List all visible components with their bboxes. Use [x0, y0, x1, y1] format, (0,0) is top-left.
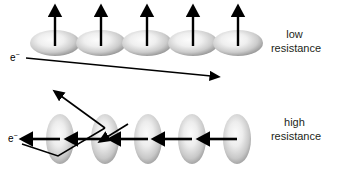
label-low-resistance: low resistance [271, 28, 321, 54]
electron-label-high: e− [8, 132, 18, 144]
domain-row-aligned-left [30, 114, 251, 164]
magnetic-domain [168, 14, 218, 56]
panel-low-resistance: e− low resistance [10, 14, 321, 76]
electron-charge: − [14, 132, 18, 139]
diagram-canvas: e− low resistance [0, 0, 355, 175]
magnetic-domain [30, 14, 80, 56]
physics-diagram: e− low resistance [0, 0, 355, 175]
magnetic-domain [122, 14, 172, 56]
magnetic-domain [76, 14, 126, 56]
label-high-line2: resistance [271, 130, 321, 142]
label-low-line2: resistance [271, 42, 321, 54]
label-high-line1: high [284, 116, 305, 128]
label-low-line1: low [286, 28, 303, 40]
panel-high-resistance: e− high resistance [8, 96, 321, 164]
domain-row-aligned-up [30, 14, 263, 56]
electron-label-low: e− [10, 51, 20, 63]
label-high-resistance: high resistance [271, 116, 321, 142]
electron-path-straight [26, 58, 211, 76]
magnetic-domain [213, 14, 263, 56]
electron-charge: − [16, 51, 20, 58]
